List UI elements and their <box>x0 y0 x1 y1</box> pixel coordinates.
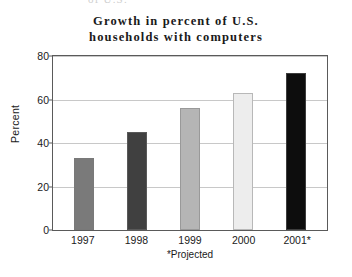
clipped-top-text: of U.S. <box>88 0 338 3</box>
bar-1997 <box>74 158 94 230</box>
bar-slot <box>60 56 108 230</box>
chart-title-line-1: Growth in percent of U.S. <box>0 13 352 29</box>
plot-area: 020406080 <box>52 55 328 231</box>
x-tick-label: 1997 <box>59 234 107 246</box>
y-tick-label: 20 <box>37 181 49 193</box>
y-tick-label: 0 <box>43 224 49 236</box>
bar-2000 <box>233 93 253 230</box>
bar-slot <box>219 56 267 230</box>
y-tick-label: 80 <box>37 50 49 62</box>
x-tick-label: 1998 <box>112 234 160 246</box>
bar-series <box>53 56 327 230</box>
chart-footnote: *Projected <box>52 249 328 260</box>
bar-1999 <box>180 108 200 230</box>
chart-title-line-2: households with computers <box>0 29 352 45</box>
x-tick-label: 2000 <box>219 234 267 246</box>
bar-slot <box>166 56 214 230</box>
y-tick-label: 40 <box>37 137 49 149</box>
chart-title: Growth in percent of U.S. households wit… <box>0 13 352 45</box>
chart-figure: of U.S. Growth in percent of U.S. househ… <box>0 0 352 277</box>
bar-slot <box>272 56 320 230</box>
x-tick-label: 2001* <box>273 234 321 246</box>
x-axis-labels: 19971998199920002001* <box>52 234 328 246</box>
bar-1998 <box>127 132 147 230</box>
y-tick-label: 60 <box>37 94 49 106</box>
bar-2001 <box>286 73 306 230</box>
y-axis-label: Percent <box>9 105 21 143</box>
bar-slot <box>113 56 161 230</box>
x-tick-label: 1999 <box>166 234 214 246</box>
